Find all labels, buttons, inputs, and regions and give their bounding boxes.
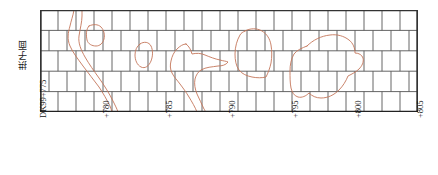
leak-region-3: [135, 42, 153, 67]
x-tick-label-1: +780: [101, 100, 111, 118]
figure-canvas: 拱子面: [0, 0, 438, 175]
side-axis-label-text: 拱子面: [15, 40, 28, 70]
x-tick-label-6: +805: [415, 100, 425, 118]
x-tick-label-4: +795: [290, 100, 300, 118]
leak-region-2: [86, 25, 104, 46]
x-tick-label-3: +790: [227, 100, 237, 118]
x-tick-label-0: DK99+775: [38, 80, 48, 118]
side-axis-label: 拱子面: [14, 24, 28, 86]
tunnel-lining-plot: [40, 10, 418, 112]
leak-region-5: [235, 29, 272, 78]
x-tick-label-2: +785: [164, 100, 174, 118]
plot-svg: [40, 10, 418, 112]
x-tick-label-5: +800: [353, 100, 363, 118]
